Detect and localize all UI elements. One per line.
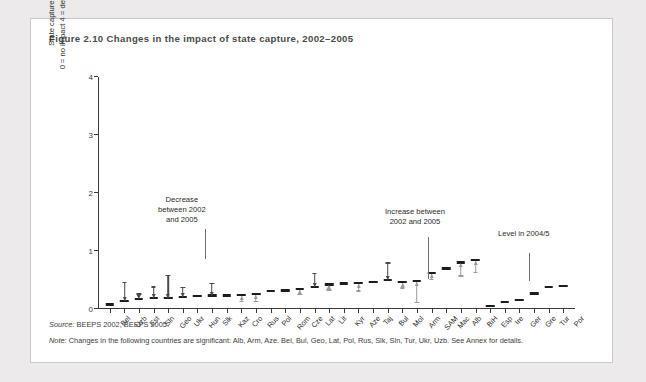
x-axis-label-ger: Ger xyxy=(528,314,543,329)
data-column xyxy=(205,77,220,309)
x-axis-label-tur: Tur xyxy=(557,314,571,328)
x-tick xyxy=(124,309,125,313)
x-tick xyxy=(168,309,169,313)
arrow-head xyxy=(356,284,360,288)
data-column xyxy=(219,77,234,309)
annotation-line: Level in 2004/5 xyxy=(498,229,550,239)
x-tick xyxy=(183,309,184,313)
annotation-line: Decrease xyxy=(158,195,206,205)
y-tick-label: 4 xyxy=(81,73,93,82)
increase-arrow xyxy=(252,295,260,302)
arrow-tail-cap xyxy=(356,290,361,291)
x-axis-label-bih: BiH xyxy=(484,314,499,329)
decrease-arrow xyxy=(120,282,128,301)
x-axis-label-ukr: Ukr xyxy=(192,314,206,328)
annotation-line: between 2002 xyxy=(158,205,206,215)
increase-arrow xyxy=(457,264,465,277)
decrease-arrow xyxy=(179,287,187,297)
data-column xyxy=(468,77,483,309)
x-tick xyxy=(490,309,491,313)
x-tick xyxy=(154,309,155,313)
x-axis-label-lit: Lit xyxy=(337,314,349,326)
data-column xyxy=(366,77,381,309)
level-bar xyxy=(530,292,538,294)
annotation-line: 2002 and 2005 xyxy=(385,217,445,227)
decrease-arrow xyxy=(164,275,172,298)
y-axis-title-line-1: State capture index xyxy=(46,0,57,103)
arrow-tail-cap xyxy=(254,301,259,302)
x-tick xyxy=(402,309,403,313)
arrow-tail-cap xyxy=(122,282,127,283)
arrow-head xyxy=(313,283,317,287)
x-axis-label-por: Por xyxy=(572,314,586,328)
arrow-tail-cap xyxy=(312,273,317,274)
arrow-tail-cap xyxy=(415,302,420,303)
x-tick xyxy=(505,309,506,313)
x-tick xyxy=(227,309,228,313)
x-tick xyxy=(373,309,374,313)
data-column xyxy=(541,77,556,309)
level-bar xyxy=(544,286,552,288)
x-axis-label-taj: Taj xyxy=(381,314,394,327)
decrease-arrow xyxy=(135,293,143,299)
arrow-head xyxy=(166,294,170,298)
y-tick xyxy=(94,192,98,193)
x-axis-label-slk: Slk xyxy=(220,314,233,328)
note-text: Changes in the following countries are s… xyxy=(69,336,523,345)
x-axis-label-lat: Lat xyxy=(323,314,336,328)
x-tick xyxy=(315,309,316,313)
arrow-tail-cap xyxy=(151,286,156,287)
increase-arrow xyxy=(413,282,421,303)
level-bar xyxy=(105,303,113,305)
x-axis-label-esp: Esp xyxy=(499,314,514,329)
arrow-tail-cap xyxy=(385,262,390,263)
source-note: Source: BEEPS 2002, BEEPS 2005. xyxy=(49,320,169,329)
level-bar xyxy=(369,281,377,283)
y-axis-title-line-2: 0 = no impact 4 = decisive impact xyxy=(57,0,68,103)
data-column xyxy=(497,77,512,309)
arrow-head xyxy=(210,292,214,296)
level-bar xyxy=(340,282,348,284)
level-bar xyxy=(266,290,274,292)
data-column xyxy=(190,77,205,309)
x-axis-label-aze: Aze xyxy=(368,314,383,329)
y-tick xyxy=(94,308,98,309)
level-bar xyxy=(501,301,509,303)
annotation-line: Increase between xyxy=(385,207,445,217)
arrow-head xyxy=(181,293,185,297)
arrow-tail-cap xyxy=(298,294,303,295)
source-text: BEEPS 2002, BEEPS 2005. xyxy=(77,320,169,329)
data-column xyxy=(132,77,147,309)
y-tick xyxy=(94,76,98,77)
level-bar xyxy=(559,285,567,287)
data-column xyxy=(439,77,454,309)
annotation-leader-line xyxy=(529,253,530,281)
increase-arrow xyxy=(354,284,362,292)
x-tick xyxy=(476,309,477,313)
x-tick xyxy=(212,309,213,313)
arrow-tail-cap xyxy=(327,289,332,290)
x-tick xyxy=(534,309,535,313)
arrow-tail-cap xyxy=(210,283,215,284)
data-column xyxy=(483,77,498,309)
level-bar xyxy=(281,289,289,291)
arrow-head xyxy=(239,296,243,300)
x-axis-label-cro: Cro xyxy=(250,314,265,329)
y-tick xyxy=(94,134,98,135)
x-axis-label-cze: Cze xyxy=(309,314,324,330)
arrow-head xyxy=(122,297,126,301)
chart-plot-area: State capture index 0 = no impact 4 = de… xyxy=(98,77,575,309)
y-axis-title: State capture index 0 = no impact 4 = de… xyxy=(46,0,68,103)
data-column xyxy=(410,77,425,309)
x-axis-label-kyr: Kyr xyxy=(352,314,366,328)
x-axis-label-bul: Bul xyxy=(396,314,410,328)
x-tick xyxy=(461,309,462,313)
x-tick xyxy=(446,309,447,313)
x-tick xyxy=(549,309,550,313)
data-column xyxy=(102,77,117,309)
arrow-tail-cap xyxy=(137,293,142,294)
y-tick-label: 3 xyxy=(81,131,93,140)
arrow-tail-cap xyxy=(239,301,244,302)
arrow-tail-cap xyxy=(181,287,186,288)
arrow-head xyxy=(386,276,390,280)
